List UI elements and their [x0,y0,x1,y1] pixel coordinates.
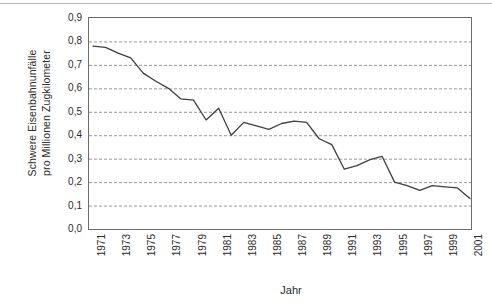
y-axis-tick-label: 0,0 [54,224,82,234]
y-axis-tick-label: 0,1 [54,201,82,211]
x-axis-tick-label: 1995 [399,234,409,274]
x-axis-tick-label: 1991 [348,234,358,274]
x-axis-tick-label: 1999 [449,234,459,274]
y-axis-tick-label: 0,5 [54,107,82,117]
x-axis-title: Jahr [0,284,492,296]
plot-svg [89,18,471,229]
y-axis-tick-label: 0,2 [54,177,82,187]
y-axis-tick-label: 0,3 [54,154,82,164]
x-axis-tick-label: 1997 [424,234,434,274]
x-axis-tick-label: 1983 [248,234,258,274]
y-axis-tick-label: 0,9 [54,13,82,23]
top-divider-rule [0,3,492,4]
x-axis-title-text: Jahr [280,284,301,296]
x-axis-tick-label: 1993 [373,234,383,274]
y-axis-tick-label: 0,7 [54,60,82,70]
x-axis-tick-label: 2001 [474,234,484,274]
x-axis-tick-label: 1987 [298,234,308,274]
y-axis-tick-label: 0,8 [54,36,82,46]
plot-area [88,17,472,230]
chart-figure: Schwere Eisenbahnunfälle pro Millionen Z… [0,0,492,307]
x-axis-tick-label: 1977 [172,234,182,274]
x-axis-tick-label: 1975 [147,234,157,274]
data-series-line [93,46,470,198]
x-axis-tick-label: 1971 [97,234,107,274]
x-axis-tick-label: 1985 [273,234,283,274]
y-axis-title-line-1: Schwere Eisenbahnunfälle [25,8,39,218]
x-axis-tick-label: 1989 [323,234,333,274]
x-axis-tick-label: 1979 [198,234,208,274]
y-axis-tick-label: 0,4 [54,130,82,140]
y-axis-title-line-2: pro Millionen Zugkilometer [39,8,53,218]
x-axis-tick-label: 1981 [223,234,233,274]
y-axis-tick-label: 0,6 [54,83,82,93]
x-axis-tick-label: 1973 [122,234,132,274]
